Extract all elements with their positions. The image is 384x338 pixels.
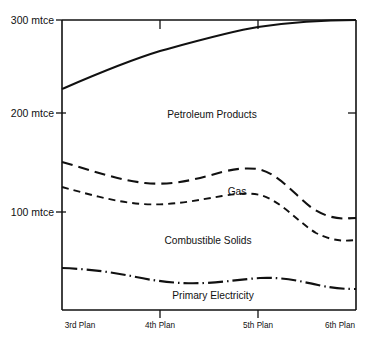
x-axis-label-6th-plan: 6th Plan (325, 321, 355, 330)
series-label-petroleum-products: Petroleum Products (167, 109, 256, 120)
series-label-primary-electricity: Primary Electricity (172, 290, 254, 301)
x-axis-labels: 3rd Plan 4th Plan 5th Plan 6th Plan (65, 321, 356, 330)
y-axis-labels: 300 mtce 200 mtce 100 mtce (11, 14, 54, 218)
series-line-combustible-solids (62, 187, 356, 241)
series-annotations: Petroleum Products Gas Combustible Solid… (164, 109, 256, 301)
series-line-petroleum-products (62, 20, 356, 89)
x-axis-label-4th-plan: 4th Plan (145, 321, 175, 330)
y-axis-label-200: 200 mtce (11, 107, 54, 119)
x-axis-ticks (160, 310, 258, 318)
series-curves (62, 20, 356, 289)
series-label-combustible-solids: Combustible Solids (164, 235, 251, 246)
plot-frame (62, 20, 356, 310)
y-axis-label-100: 100 mtce (11, 206, 54, 218)
y-axis-label-300: 300 mtce (11, 14, 54, 26)
series-line-gas (62, 162, 356, 219)
x-axis-label-3rd-plan: 3rd Plan (65, 321, 96, 330)
y-axis-ticks (56, 20, 66, 212)
series-label-gas: Gas (228, 186, 247, 197)
chart-container: 300 mtce 200 mtce 100 mtce 3rd Plan 4th … (0, 0, 384, 338)
series-line-primary-electricity (62, 268, 356, 289)
energy-plan-line-chart: 300 mtce 200 mtce 100 mtce 3rd Plan 4th … (0, 0, 384, 338)
x-axis-label-5th-plan: 5th Plan (243, 321, 273, 330)
